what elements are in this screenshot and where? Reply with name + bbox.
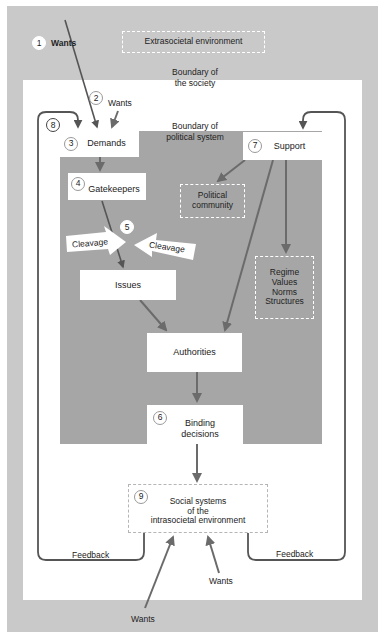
- number-badge-3: 3: [64, 137, 78, 151]
- support-to-political-community: [218, 160, 245, 181]
- binding-decisions-box: 6 Binding decisions: [147, 405, 243, 444]
- gatekeepers-box: 4 Gatekeepers: [68, 173, 146, 200]
- issues-label: Issues: [115, 280, 141, 290]
- regime-box: Regime Values Norms Structures: [255, 256, 314, 319]
- authorities-label: Authorities: [173, 347, 216, 357]
- political-community-line-2: community: [192, 201, 233, 211]
- badge-2-text: 2: [94, 93, 99, 103]
- wants-inner-arrow: [208, 537, 219, 573]
- wants-outer-arrow: [145, 537, 173, 608]
- support-box: 7 Support: [243, 132, 322, 160]
- number-badge-2: 2: [89, 91, 103, 105]
- issues-box: Issues: [80, 270, 176, 300]
- number-badge-6: 6: [153, 411, 167, 425]
- issues-to-authorities: [140, 300, 166, 330]
- authorities-box: Authorities: [147, 333, 242, 372]
- gatekeepers-label: Gatekeepers: [88, 184, 140, 194]
- wants-1-label: Wants: [51, 38, 76, 48]
- wants-2-label: Wants: [108, 98, 132, 108]
- binding-line-2: decisions: [181, 429, 219, 439]
- badge-8-text: 8: [51, 120, 56, 130]
- feedback-left-label: Feedback: [72, 550, 109, 560]
- badge-4-text: 4: [76, 179, 81, 189]
- wants-outer-label: Wants: [131, 614, 155, 624]
- number-badge-7: 7: [248, 139, 262, 153]
- number-badge-8: 8: [46, 118, 60, 132]
- demands-box: 3 Demands: [60, 130, 139, 157]
- badge-5-text: 5: [125, 222, 130, 232]
- support-label: Support: [274, 141, 306, 151]
- wants-2-arrow: [112, 111, 118, 127]
- badge-6-text: 6: [158, 413, 163, 423]
- number-badge-4: 4: [71, 177, 85, 191]
- connector-lines: [0, 0, 384, 638]
- badge-9-text: 9: [139, 492, 144, 502]
- feedback-left-top: [38, 112, 78, 500]
- social-systems-box: 9 Social systems of the intrasocietal en…: [128, 484, 268, 533]
- wants-inner-label: Wants: [209, 576, 233, 586]
- wants-1-arrow: [65, 20, 97, 127]
- feedback-right-label: Feedback: [276, 549, 313, 559]
- badge-1-text: 1: [37, 38, 42, 48]
- binding-line-1: Binding: [181, 418, 219, 428]
- regime-line-4: Structures: [265, 297, 304, 307]
- badge-3-text: 3: [69, 139, 74, 149]
- number-badge-1: 1: [32, 36, 46, 50]
- demands-label: Demands: [87, 138, 126, 148]
- badge-7-text: 7: [253, 141, 258, 151]
- social-line-3: intrasocietal environment: [151, 516, 246, 526]
- number-badge-5: 5: [120, 220, 134, 234]
- number-badge-9: 9: [134, 490, 148, 504]
- political-community-box: Political community: [180, 184, 245, 218]
